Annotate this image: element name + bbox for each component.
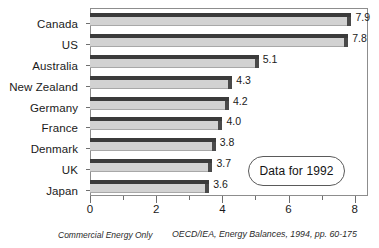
footnote-source-citation: OECD/IEA, Energy Balances, 1994, pp. 60-… [172,229,357,239]
y-axis-label: Australia [32,60,78,72]
bar-side-face [205,184,209,193]
bar-side-face [212,142,216,151]
x-axis-tick-label: 2 [153,203,159,216]
y-axis-label: Germany [30,102,78,114]
chart-container: CanadaUSAustraliaNew ZealandGermanyFranc… [0,0,379,248]
bar-side-face [347,17,351,26]
bar-side-face [255,59,259,68]
bar-value-label: 4.0 [226,116,241,127]
x-axis-major-tick [355,196,356,203]
x-axis-minor-tick [322,196,323,200]
bar-side-face [218,121,222,130]
bar-side-face [344,38,348,47]
bar [90,97,229,110]
bar [90,13,351,26]
x-axis-ticks [90,196,368,203]
footnote-commercial-energy: Commercial Energy Only [58,230,152,240]
bar [90,76,232,89]
x-axis-tick-labels: 02468 [0,203,379,219]
bar-value-label: 3.6 [213,179,228,190]
bar-side-face [208,163,212,172]
bar [90,34,348,47]
bar-value-label: 4.3 [236,75,251,86]
bar-value-label: 3.7 [216,158,231,169]
bar-front-face [90,17,347,26]
x-axis-minor-tick [189,196,190,200]
x-axis-tick-label: 6 [285,203,291,216]
bar-front-face [90,142,212,151]
y-axis-label: US [62,39,78,51]
bar-front-face [90,38,344,47]
bar-front-face [90,163,208,172]
x-axis-tick-label: 8 [352,203,358,216]
y-axis-label: New Zealand [9,81,78,93]
x-axis-major-tick [289,196,290,203]
bar-front-face [90,101,225,110]
bar-value-label: 7.8 [352,33,367,44]
y-axis-label: Denmark [31,143,78,155]
bar-front-face [90,184,205,193]
x-axis-major-tick [222,196,223,203]
y-axis-label: Canada [37,18,78,30]
y-axis-label: France [42,122,78,134]
x-axis-tick-label: 4 [219,203,225,216]
bar-value-label: 5.1 [263,54,278,65]
bar-front-face [90,59,255,68]
x-axis-minor-tick [123,196,124,200]
callout-data-for-1992: Data for 1992 [248,156,345,186]
y-axis-label: UK [62,164,78,176]
x-axis-minor-tick [255,196,256,200]
x-axis-tick-label: 0 [87,203,93,216]
bar [90,180,209,193]
bar-front-face [90,121,218,130]
y-axis-category-labels: CanadaUSAustraliaNew ZealandGermanyFranc… [0,8,84,196]
callout-label: Data for 1992 [259,164,333,178]
bar-value-label: 7.9 [355,12,370,23]
bar-front-face [90,80,228,89]
x-axis-major-tick [90,196,91,203]
x-axis-major-tick [156,196,157,203]
bar [90,55,259,68]
bar-side-face [228,80,232,89]
bar [90,159,212,172]
bar-value-label: 3.8 [220,137,235,148]
bar-side-face [225,101,229,110]
y-axis-label: Japan [46,185,78,197]
bar [90,117,222,130]
bar-value-label: 4.2 [233,96,248,107]
bar [90,138,216,151]
